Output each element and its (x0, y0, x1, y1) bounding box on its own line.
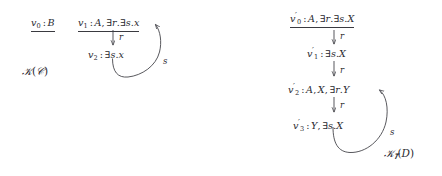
node-v2-text: v2:∃s.x (88, 49, 124, 60)
node-v1-prime: v′1:∃s.X (307, 47, 346, 60)
figure-two-labelled-graphs: v0:B v1:A,∃r.∃s.x v2:∃s.x r s 𝒦(𝒞) v′0:A… (0, 0, 442, 176)
node-v1-prime-text: v′1:∃s.X (307, 48, 346, 59)
node-v0: v0:B (31, 18, 55, 32)
node-v1-text: v1:A,∃r.∃s.x (78, 17, 139, 28)
node-v2-prime: v′2:A,X,∃r.Y (288, 83, 349, 96)
edge-label-right-s: s (390, 128, 394, 137)
caption-right-script: 𝒦 (384, 147, 394, 159)
node-v0-prime: v′0:A,∃r.∃s.X (290, 12, 354, 28)
node-v3-prime: v′3:Y,∃s.X (293, 119, 343, 132)
node-v1: v1:A,∃r.∃s.x (78, 18, 139, 32)
caption-right-graph: 𝒦𝑻(D) (384, 148, 414, 160)
arrows-layer (0, 0, 442, 176)
node-v0-text: v0:B (31, 17, 55, 28)
caption-left-arg: 𝒞 (36, 65, 44, 77)
caption-left-script: 𝒦 (22, 65, 32, 77)
caption-left-graph: 𝒦(𝒞) (22, 66, 48, 77)
caption-right-arg: D (402, 147, 410, 159)
node-v2-prime-text: v′2:A,X,∃r.Y (288, 84, 349, 95)
node-v2: v2:∃s.x (88, 50, 124, 62)
edge-label-right-r3: r (340, 101, 344, 110)
node-v3-prime-text: v′3:Y,∃s.X (293, 120, 343, 131)
node-v0-prime-text: v′0:A,∃r.∃s.X (290, 13, 354, 24)
edge-label-right-r1: r (340, 32, 344, 41)
edge-label-right-r2: r (340, 66, 344, 75)
edge-label-left-r: r (119, 33, 123, 42)
edge-label-left-s: s (163, 57, 167, 66)
